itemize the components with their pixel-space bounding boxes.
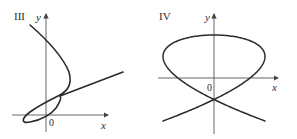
- panel-iv-label: IV: [159, 10, 171, 22]
- figure-canvas: III y x 0 IV y x 0: [0, 0, 297, 139]
- panel-iii: III y x 0: [12, 10, 123, 132]
- panel-iii-curve: [23, 25, 123, 122]
- panel-iv-y-label: y: [204, 11, 210, 23]
- panel-iii-label: III: [14, 10, 25, 22]
- panel-iii-x-label: x: [100, 119, 106, 131]
- panel-iv: IV y x 0: [158, 10, 278, 134]
- panel-iii-y-label: y: [35, 11, 41, 23]
- panel-iii-origin-label: 0: [49, 117, 54, 128]
- panel-iv-x-label: x: [271, 81, 277, 93]
- panel-iv-origin-label: 0: [207, 82, 212, 93]
